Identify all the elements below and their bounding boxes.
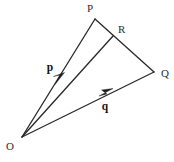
arrowhead-vector-q xyxy=(99,89,113,97)
vector-diagram: P R Q O p q xyxy=(0,0,174,162)
point-label-Q: Q xyxy=(161,67,169,79)
point-label-O: O xyxy=(6,140,14,152)
point-label-R: R xyxy=(118,23,126,35)
vector-diagram-canvas: P R Q O p q xyxy=(0,0,174,162)
vector-label-q: q xyxy=(102,100,109,113)
point-label-P: P xyxy=(87,2,93,14)
vector-label-p: p xyxy=(47,61,53,74)
segment-OR xyxy=(22,36,113,137)
